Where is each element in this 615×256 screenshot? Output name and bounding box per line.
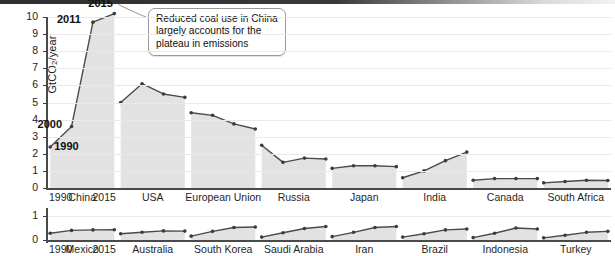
y-tick-label-top-8: 8 <box>22 44 38 56</box>
y-tick-label-top-4: 4 <box>22 113 38 125</box>
y-axis-line-bottom <box>46 208 48 243</box>
x-end-label-bottom-right: 2015 <box>93 243 116 255</box>
data-point <box>373 226 377 230</box>
data-point <box>395 225 399 229</box>
gridline-top-7 <box>47 68 611 69</box>
x-end-label-top-right: 2015 <box>93 191 116 203</box>
data-point <box>352 164 356 168</box>
gridline-top-6 <box>47 85 611 86</box>
y-tick-label-top-5: 5 <box>22 96 38 108</box>
data-point <box>330 235 334 239</box>
data-point <box>162 229 166 233</box>
data-point <box>563 180 567 184</box>
y-tick-label-top-2: 2 <box>22 147 38 159</box>
data-point <box>493 231 497 235</box>
data-point <box>606 230 610 234</box>
gridline-top-3 <box>47 137 611 138</box>
annotation-callout-text: Reduced coal use in China largely accoun… <box>156 13 278 49</box>
data-point <box>113 228 117 232</box>
data-point <box>514 177 518 181</box>
callout-leader-line <box>118 5 148 18</box>
emissions-chart-figure: GtCO2/year Reduced coal use in China lar… <box>0 0 615 256</box>
data-point <box>606 179 610 183</box>
data-point <box>260 235 264 239</box>
data-point <box>254 127 258 131</box>
data-point <box>232 122 236 126</box>
y-tick-label-bottom-1: 1 <box>22 209 38 221</box>
data-point <box>373 164 377 168</box>
data-point <box>70 125 74 129</box>
series-area-saudi-arabia <box>262 227 326 240</box>
data-point <box>260 143 264 147</box>
series-area-mexico <box>50 230 114 240</box>
data-point <box>70 229 74 233</box>
series-area-indonesia <box>473 228 537 240</box>
gridline-top-10 <box>47 17 611 18</box>
data-point <box>514 226 518 230</box>
data-point <box>281 161 285 165</box>
data-point <box>113 12 117 16</box>
gridline-top-8 <box>47 51 611 52</box>
data-point <box>585 231 589 235</box>
data-point <box>211 230 215 234</box>
series-area-china <box>50 14 114 188</box>
point-label-1990: 1990 <box>54 140 78 152</box>
data-point <box>140 231 144 235</box>
data-point <box>324 157 328 161</box>
data-point <box>91 20 95 24</box>
y-tick-label-top-10: 10 <box>22 10 38 22</box>
data-point <box>536 177 540 181</box>
point-label-2015: 2015 <box>88 0 112 9</box>
data-point <box>254 225 258 229</box>
data-point <box>471 179 475 183</box>
gridline-top-4 <box>47 120 611 121</box>
data-point <box>471 236 475 240</box>
data-point <box>303 156 307 160</box>
data-point <box>536 227 540 231</box>
y-axis-line-top <box>46 17 48 190</box>
series-area-turkey <box>544 231 608 240</box>
data-point <box>189 234 193 238</box>
annotation-callout: Reduced coal use in China largely accoun… <box>148 8 286 56</box>
series-area-japan <box>332 166 396 188</box>
data-point <box>395 165 399 169</box>
data-point <box>352 231 356 235</box>
data-point <box>563 233 567 237</box>
series-area-european-union <box>191 113 255 188</box>
data-point <box>211 114 215 118</box>
data-point <box>183 96 187 100</box>
x-end-label-top-left: 1990 <box>49 191 72 203</box>
data-point <box>281 231 285 235</box>
data-point <box>444 228 448 232</box>
gridline-top-1 <box>47 171 611 172</box>
data-point <box>119 232 123 236</box>
data-point <box>444 159 448 163</box>
x-axis-line-top <box>47 188 611 190</box>
data-point <box>91 228 95 232</box>
y-tick-label-top-3: 3 <box>22 130 38 142</box>
point-label-2000: 2000 <box>38 118 62 130</box>
category-label-south-africa: South Africa <box>516 191 615 203</box>
x-end-label-bottom-left: 1990 <box>49 243 72 255</box>
data-point <box>465 227 469 231</box>
series-area-iran <box>332 227 396 240</box>
data-point <box>401 176 405 180</box>
data-point <box>48 231 52 235</box>
gridline-top-5 <box>47 103 611 104</box>
data-point <box>232 226 236 230</box>
series-area-russia <box>262 145 326 188</box>
data-point <box>48 145 52 149</box>
y-tick-label-top-9: 9 <box>22 27 38 39</box>
category-label-turkey: Turkey <box>516 243 615 255</box>
data-point <box>422 232 426 236</box>
gridline-top-9 <box>47 34 611 35</box>
point-label-2011: 2011 <box>57 13 81 25</box>
data-point <box>542 181 546 185</box>
series-area-brazil <box>403 229 467 240</box>
data-point <box>183 229 187 233</box>
data-point <box>585 179 589 183</box>
data-point <box>324 225 328 229</box>
data-point <box>303 227 307 231</box>
data-point <box>162 92 166 96</box>
gridline-bottom-1 <box>47 216 611 217</box>
